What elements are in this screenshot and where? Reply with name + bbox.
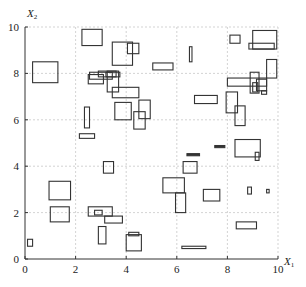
- x-tick-label: 8: [225, 263, 231, 275]
- data-rectangle: [105, 216, 123, 223]
- y-tick-label: 0: [14, 253, 20, 265]
- data-rectangle: [248, 187, 252, 194]
- data-rectangle: [90, 72, 113, 79]
- y-tick-label: 10: [8, 21, 20, 33]
- data-rectangle: [50, 207, 69, 222]
- data-rectangle: [107, 71, 118, 92]
- data-rectangle: [262, 91, 267, 94]
- data-segment: [187, 154, 200, 156]
- data-rectangle: [236, 222, 256, 229]
- x-tick-label: 10: [273, 263, 285, 275]
- data-rectangle: [115, 102, 131, 119]
- rectangle-plot: 02468100246810 X1 X2: [0, 0, 306, 287]
- data-rectangle: [28, 239, 33, 246]
- data-rectangle: [49, 181, 71, 200]
- data-rectangle: [163, 178, 185, 193]
- axes: [25, 27, 278, 259]
- data-rectangle: [33, 62, 58, 83]
- grid-lines: [25, 27, 278, 259]
- x-tick-label: 6: [174, 263, 180, 275]
- data-rectangle: [253, 30, 277, 49]
- data-rectangle: [106, 72, 120, 77]
- data-rectangle: [82, 29, 102, 45]
- data-rectangle: [226, 92, 237, 113]
- data-rectangle: [267, 189, 270, 192]
- x-tick-label: 0: [22, 263, 28, 275]
- data-rectangle: [255, 152, 259, 160]
- tick-labels: 02468100246810: [8, 21, 284, 275]
- data-rectangle: [103, 162, 113, 174]
- data-rectangle: [139, 100, 150, 119]
- data-rectangle: [195, 95, 218, 103]
- data-rectangle: [84, 107, 89, 128]
- data-segment: [215, 145, 225, 147]
- data-rectangle: [79, 134, 94, 139]
- y-tick-label: 4: [14, 160, 20, 172]
- y-tick-label: 2: [14, 207, 20, 219]
- data-rectangle: [127, 43, 138, 53]
- data-rectangle: [235, 106, 245, 126]
- data-rectangle: [183, 162, 197, 174]
- data-rectangle: [230, 35, 240, 43]
- data-rectangle: [267, 59, 277, 78]
- y-axis-label: X2: [26, 7, 38, 21]
- x-tick-label: 4: [123, 263, 129, 275]
- x-axis-label: X1: [283, 255, 295, 269]
- data-rectangle: [182, 246, 206, 248]
- y-tick-label: 6: [14, 114, 20, 126]
- data-rectangle: [112, 87, 139, 97]
- data-rectangle: [98, 227, 106, 244]
- x-tick-label: 2: [73, 263, 79, 275]
- rectangle-series: [28, 29, 277, 251]
- data-rectangle: [126, 235, 141, 251]
- data-rectangle: [235, 140, 260, 157]
- data-rectangle: [153, 63, 173, 70]
- data-rectangle: [129, 232, 139, 235]
- data-rectangle: [189, 47, 192, 62]
- data-rectangle: [134, 112, 145, 129]
- data-rectangle: [203, 189, 219, 201]
- y-tick-label: 8: [14, 67, 20, 79]
